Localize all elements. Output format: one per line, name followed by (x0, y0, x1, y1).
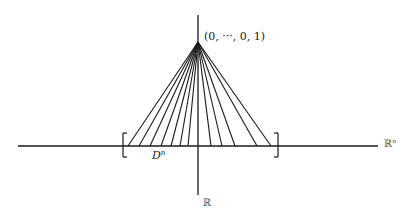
cone-line (171, 42, 198, 146)
cone-line (128, 42, 198, 146)
disk-brackets (123, 133, 278, 157)
disk-label-base: D (152, 149, 161, 162)
disk-label: Dn (152, 150, 165, 161)
cone-line (198, 42, 222, 146)
apex-point-label: (0, ···, 0, 1) (204, 31, 265, 42)
vertical-axis-label: ℝ (203, 198, 211, 208)
horizontal-axis-label-superscript: n (392, 137, 396, 144)
cone-lines (128, 42, 271, 146)
cone-diagram: (0, ···, 0, 1) Dn ℝn ℝ (0, 0, 414, 214)
cone-line (150, 42, 198, 146)
cone-line (198, 42, 235, 146)
disk-label-superscript: n (161, 149, 166, 157)
horizontal-axis-label: ℝn (384, 138, 396, 149)
cone-line (198, 42, 257, 146)
